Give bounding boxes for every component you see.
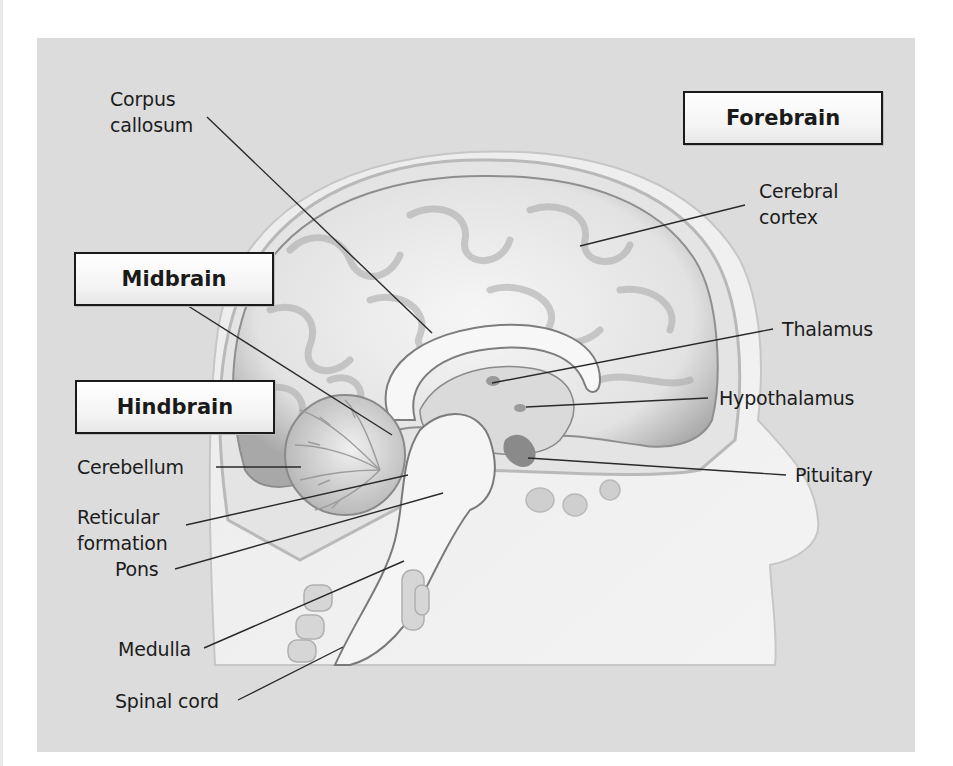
reticular-formation-line-2: formation	[77, 530, 168, 556]
forebrain-label: Forebrain	[726, 106, 840, 130]
cerebral-cortex-line-2: cortex	[759, 204, 838, 230]
hypothalamus-mark	[514, 404, 526, 412]
medulla-label: Medulla	[118, 636, 191, 662]
thalamus-label: Thalamus	[782, 316, 873, 342]
reticular-formation-line-1: Reticular	[77, 504, 168, 530]
hindbrain-box: Hindbrain	[75, 380, 275, 434]
hypothalamus-label: Hypothalamus	[719, 385, 854, 411]
cerebellum-label: Cerebellum	[77, 454, 184, 480]
cerebral-cortex-label: Cerebral cortex	[759, 178, 838, 230]
midbrain-box: Midbrain	[74, 252, 274, 306]
hindbrain-label: Hindbrain	[117, 395, 233, 419]
pituitary-label: Pituitary	[795, 462, 872, 488]
corpus-callosum-label: Corpus callosum	[110, 86, 193, 138]
spinal-cord-label: Spinal cord	[115, 688, 219, 714]
thalamus-mark	[486, 376, 500, 386]
midbrain-label: Midbrain	[122, 267, 227, 291]
cerebral-cortex-line-1: Cerebral	[759, 178, 838, 204]
reticular-formation-label: Reticular formation	[77, 504, 168, 556]
corpus-callosum-line-1: Corpus	[110, 86, 193, 112]
forebrain-box: Forebrain	[683, 91, 883, 145]
pons-label: Pons	[115, 556, 159, 582]
corpus-callosum-line-2: callosum	[110, 112, 193, 138]
